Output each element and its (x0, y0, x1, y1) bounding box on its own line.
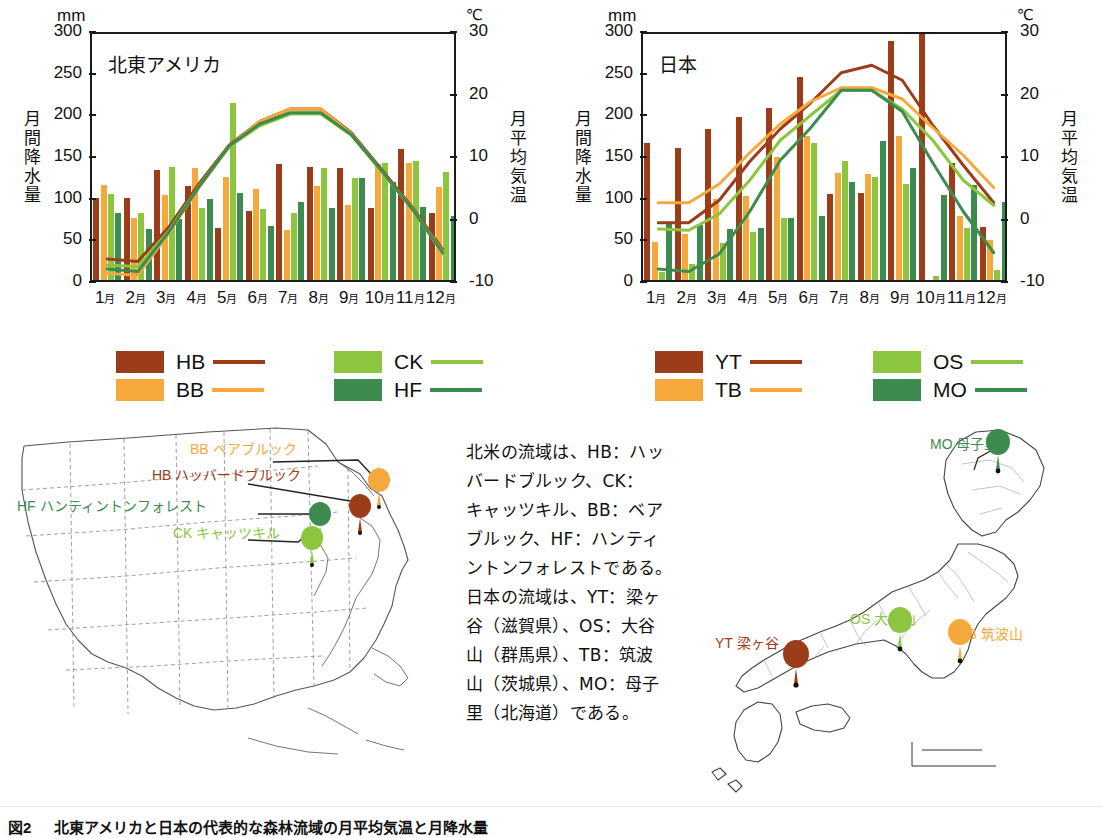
tick-mark (1001, 94, 1008, 96)
legend-item-yt: YT (655, 350, 802, 374)
legend-line-icon (750, 360, 802, 364)
explanatory-text-line: ントンフォレストである。 (466, 554, 682, 583)
tick-mark (89, 239, 96, 241)
map-marker-yt (783, 640, 809, 688)
explanatory-text-line: 里（北海道）である。 (466, 699, 682, 728)
line-hf (107, 113, 443, 272)
y-tick-left: 250 (40, 63, 82, 83)
chart-title: 日本 (659, 50, 697, 77)
tick-mark (450, 281, 457, 283)
legend-label: HB (176, 350, 205, 374)
y-tick-left: 200 (40, 104, 82, 124)
divider (0, 806, 1103, 807)
legend-item-ck: CK (334, 350, 483, 374)
tick-mark (640, 239, 647, 241)
temperature-lines (643, 34, 1005, 280)
tick-mark (640, 114, 647, 116)
left-axis-title: 月間降水量 (22, 110, 42, 205)
explanatory-text-line: 山（茨城県）、MO：母子 (466, 670, 682, 699)
line-tb (658, 88, 994, 203)
y-tick-right: 10 (469, 146, 511, 166)
legend-line-icon (430, 388, 482, 392)
line-ck (107, 114, 443, 267)
caption-text: 北東アメリカと日本の代表的な森林流域の月平均気温と月降水量 (54, 819, 488, 836)
right-axis-title: 月平均気温 (508, 110, 528, 205)
legend-label: MO (933, 378, 967, 402)
y-tick-right: 20 (469, 84, 511, 104)
explanatory-text-line: バードブルック、CK： (466, 467, 682, 496)
legend-label: TB (715, 378, 742, 402)
legend-line-icon (750, 388, 802, 392)
line-mo (658, 90, 994, 271)
y-tick-left: 50 (591, 229, 633, 249)
y-tick-left: 0 (591, 271, 633, 291)
map-label-tb: TB 筑波山 (959, 623, 1023, 643)
tick-mark (1001, 219, 1008, 221)
legend-label: YT (715, 350, 742, 374)
y-tick-right: -10 (1020, 271, 1062, 291)
tick-mark (640, 156, 647, 158)
y-tick-left: 300 (591, 21, 633, 41)
explanatory-text-line: 日本の流域は、YT：梁ヶ (466, 583, 682, 612)
y-tick-right: 0 (469, 209, 511, 229)
chart-title: 北東アメリカ (108, 50, 221, 77)
chart-northeast-america: mm ℃ 月間降水量 月平均気温 北東アメリカ 0501001502002503… (0, 0, 551, 330)
explanatory-text-line: 谷（滋賀県）、OS：大谷 (466, 612, 682, 641)
legend-item-os: OS (873, 350, 1023, 374)
legend-swatch-icon (655, 351, 703, 373)
y-tick-left: 150 (591, 146, 633, 166)
map-label-os: OS 大谷山 (850, 608, 916, 628)
legend-item-bb: BB (116, 378, 264, 402)
right-axis-title: 月平均気温 (1059, 110, 1079, 205)
tick-mark (89, 31, 96, 33)
legend-swatch-icon (655, 379, 703, 401)
tick-mark (450, 156, 457, 158)
tick-mark (450, 219, 457, 221)
tick-mark (1001, 156, 1008, 158)
chart-japan: mm ℃ 月間降水量 月平均気温 日本 050100150200250300 -… (551, 0, 1102, 330)
legend-label: OS (933, 350, 963, 374)
y-tick-right: 30 (1020, 21, 1062, 41)
explanatory-text-line: 山（群馬県）、TB：筑波 (466, 641, 682, 670)
tick-mark (89, 198, 96, 200)
legend-item-hb: HB (116, 350, 265, 374)
y-tick-left: 50 (40, 229, 82, 249)
explanatory-text: 北米の流域は、HB：ハッバードブルック、CK：キャッツキル、BB：ベアブルック、… (466, 438, 682, 728)
y-tick-left: 150 (40, 146, 82, 166)
y-tick-right: 30 (469, 21, 511, 41)
legend-swatch-icon (334, 351, 382, 373)
explanatory-text-line: ブルック、HF：ハンティ (466, 525, 682, 554)
y-tick-left: 100 (40, 188, 82, 208)
legend-label: BB (176, 378, 204, 402)
tick-mark (640, 73, 647, 75)
map-label-hb: HB ハッバードブルック (152, 464, 301, 484)
legend-line-icon (213, 360, 265, 364)
tick-mark (89, 73, 96, 75)
legend-swatch-icon (873, 379, 921, 401)
y-tick-right: 20 (1020, 84, 1062, 104)
y-tick-right: -10 (469, 271, 511, 291)
left-axis-title: 月間降水量 (573, 110, 593, 205)
x-tick-12: 12月 (420, 288, 463, 308)
tick-mark (1001, 31, 1008, 33)
line-bb (107, 109, 443, 275)
y-tick-left: 200 (591, 104, 633, 124)
tick-mark (1001, 281, 1008, 283)
y-tick-right: 0 (1020, 209, 1062, 229)
tick-mark (89, 281, 96, 283)
tick-mark (640, 281, 647, 283)
explanatory-text-line: キャッツキル、BB：ベア (466, 496, 682, 525)
legend-swatch-icon (873, 351, 921, 373)
y-tick-left: 250 (591, 63, 633, 83)
caption-label: 図2 (8, 819, 31, 836)
map-label-bb: BB ベアブルック (190, 438, 297, 458)
x-tick-12: 12月 (971, 288, 1014, 308)
tick-mark (89, 156, 96, 158)
tick-mark (450, 31, 457, 33)
legend-line-icon (971, 360, 1023, 364)
legend-label: HF (394, 378, 422, 402)
y-tick-left: 300 (40, 21, 82, 41)
map-label-ck: CK キャッツキル (173, 522, 280, 542)
y-tick-left: 0 (40, 271, 82, 291)
map-label-hf: HF ハンティントンフォレスト (17, 495, 207, 515)
